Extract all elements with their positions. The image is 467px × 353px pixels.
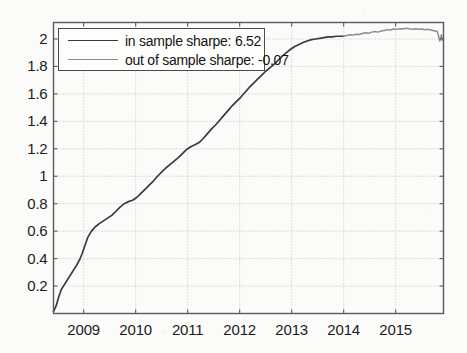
y-axis-tick-label: 2 bbox=[39, 30, 47, 47]
legend-entry-out-of-sample: out of sample sharpe: -0.07 bbox=[59, 49, 264, 70]
legend-entry-in-sample: in sample sharpe: 6.52 bbox=[59, 30, 264, 51]
x-axis-tick-label: 2011 bbox=[163, 321, 213, 338]
y-axis-tick-label: 1.4 bbox=[27, 112, 47, 129]
x-axis-tick-label: 2010 bbox=[111, 321, 161, 338]
y-axis-tick-label: 0.4 bbox=[27, 250, 47, 267]
legend-label-out-of-sample: out of sample sharpe: -0.07 bbox=[125, 52, 289, 68]
y-axis-tick-label: 1.6 bbox=[27, 85, 47, 102]
x-axis-tick-label: 2013 bbox=[267, 321, 317, 338]
x-axis-tick-label: 2009 bbox=[59, 321, 109, 338]
y-axis-tick-label: 0.6 bbox=[27, 222, 47, 239]
y-axis-tick-label: 1.8 bbox=[27, 57, 47, 74]
legend-swatch-in-sample bbox=[68, 40, 118, 41]
x-axis-tick-label: 2014 bbox=[319, 321, 369, 338]
legend: in sample sharpe: 6.52 out of sample sha… bbox=[58, 28, 265, 71]
y-axis-tick-label: 0.2 bbox=[27, 277, 47, 294]
x-axis-tick-label: 2015 bbox=[371, 321, 421, 338]
figure-canvas: in sample sharpe: 6.52 out of sample sha… bbox=[0, 0, 467, 353]
series-line-0 bbox=[54, 36, 344, 311]
y-axis-tick-label: 0.8 bbox=[27, 195, 47, 212]
x-axis-tick-label: 2012 bbox=[215, 321, 265, 338]
y-axis-tick-label: 1.2 bbox=[27, 140, 47, 157]
legend-label-in-sample: in sample sharpe: 6.52 bbox=[125, 33, 261, 49]
legend-swatch-out-of-sample bbox=[68, 59, 118, 60]
y-axis-tick-label: 1 bbox=[39, 167, 47, 184]
